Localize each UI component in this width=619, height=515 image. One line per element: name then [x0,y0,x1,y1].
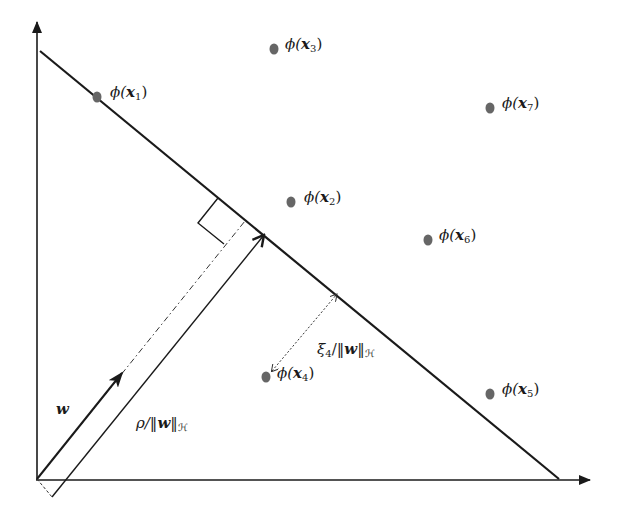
label-phi-x1: ϕ(x1) [110,85,147,102]
hilbert-subscript: ℋ [365,348,375,359]
w-symbol: w [157,414,170,432]
var-x: x [518,380,527,398]
point-x3 [270,44,279,55]
label-phi-x6: ϕ(x6) [439,228,476,245]
label-slack-xi4: ξ4/‖w‖ℋ [317,342,375,359]
norm-open: /‖ [332,340,345,358]
var-x: x [455,226,464,244]
close-paren: ) [470,226,476,244]
phi-symbol: ϕ( [439,226,455,244]
right-angle-marker [198,198,224,244]
label-rho-margin: ρ/‖w‖ℋ [136,416,188,433]
phi-symbol: ϕ( [285,35,301,53]
point-x7 [486,103,495,114]
label-w-vector: w [56,402,69,417]
norm-close: ‖ [170,414,178,432]
label-phi-x7: ϕ(x7) [502,96,539,113]
close-paren: ) [533,380,539,398]
rho-symbol: ρ/‖ [136,414,157,432]
w-symbol: w [56,400,69,418]
close-paren: ) [316,35,322,53]
phi-symbol: ϕ( [304,188,320,206]
point-x6 [424,235,433,246]
slack-distance-arrow [272,294,337,371]
phi-symbol: ϕ( [502,94,518,112]
close-paren: ) [533,94,539,112]
var-x: x [320,188,329,206]
hilbert-subscript: ℋ [178,422,188,433]
point-x5 [486,389,495,400]
label-phi-x5: ϕ(x5) [502,382,539,399]
var-x: x [301,35,310,53]
rho-margin-arrow [37,235,264,497]
norm-close: ‖ [357,340,365,358]
point-x4 [262,372,271,383]
label-phi-x3: ϕ(x3) [285,37,322,54]
phi-symbol: ϕ( [277,364,293,382]
point-x1 [93,92,102,103]
var-x: x [126,83,135,101]
diagram-canvas [0,0,619,515]
close-paren: ) [308,364,314,382]
point-x2 [287,197,296,208]
var-x: x [293,364,302,382]
phi-symbol: ϕ( [110,83,126,101]
w-symbol: w [344,340,357,358]
close-paren: ) [141,83,147,101]
label-phi-x4: ϕ(x4) [277,366,314,383]
phi-symbol: ϕ( [502,380,518,398]
var-x: x [518,94,527,112]
close-paren: ) [335,188,341,206]
label-phi-x2: ϕ(x2) [304,190,341,207]
